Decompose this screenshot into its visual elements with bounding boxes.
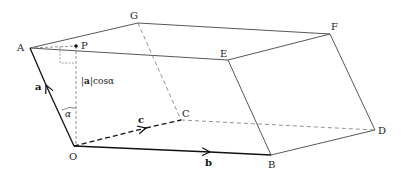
edge-C-D: [181, 120, 375, 130]
label-F: F: [331, 21, 338, 32]
edge-F-D: [330, 34, 375, 130]
vector-c-rest: [146, 120, 181, 128]
label-vector-c: c: [138, 114, 144, 125]
label-E: E: [220, 48, 227, 59]
label-vector-a: a: [35, 81, 42, 92]
edge-G-F: [138, 23, 330, 34]
label-A: A: [16, 42, 25, 53]
label-D: D: [378, 125, 386, 136]
vector-b-rest: [210, 152, 271, 155]
projection-cos-alpha: |cosα: [90, 76, 114, 87]
edge-E-B: [228, 60, 271, 155]
edge-G-C: [138, 23, 181, 120]
label-C: C: [182, 108, 190, 119]
label-projection: |a|cosα: [81, 76, 114, 87]
point-P-dot: [74, 44, 78, 48]
parallelepiped-diagram: A P G F E O B C D a b c |a|cosα α: [0, 0, 405, 178]
vector-a-rest: [30, 48, 46, 85]
label-P: P: [81, 40, 88, 51]
label-vector-b: b: [205, 157, 212, 168]
vectors: [30, 48, 271, 155]
right-angle-marker: [60, 47, 74, 63]
vector-c-arrow: [74, 128, 146, 146]
edge-E-F: [228, 34, 330, 60]
vector-b-arrow: [74, 146, 210, 152]
label-angle-alpha: α: [65, 109, 71, 119]
label-B: B: [268, 159, 275, 170]
label-G: G: [130, 10, 138, 21]
edge-B-D: [271, 130, 375, 155]
label-O: O: [69, 151, 77, 162]
